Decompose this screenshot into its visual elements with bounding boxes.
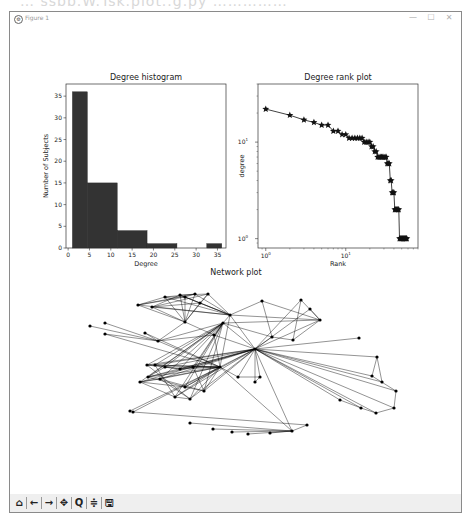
network-edge [372,357,377,376]
zoom-button[interactable]: Q [73,497,85,509]
network-edge [292,425,307,431]
y-tick-label: 35 [54,92,62,99]
magnifier-icon: Q [75,497,84,508]
network-plot-title: Network plot [210,268,261,277]
network-node [359,406,362,409]
network-node [146,375,149,378]
network-node [188,397,191,400]
floppy-icon: 🖫 [105,497,114,508]
network-node [253,347,256,350]
network-node [143,331,146,334]
network-node [394,389,397,392]
pan-button[interactable]: ✥ [58,497,70,509]
histogram-title: Degree histogram [110,73,182,82]
network-node [178,293,181,296]
navigation-toolbar: ⌂ ← → ✥ Q ≑ 🖫 [10,494,461,512]
network-edge [160,349,255,379]
network-node [131,410,134,413]
network-edge [376,408,394,413]
window-title: Figure 1 [25,14,49,21]
toolbar-divider [101,497,102,509]
network-edge [158,322,185,341]
x-tick-label: 20 [150,251,158,258]
network-edge [255,349,396,391]
toolbar-divider [56,497,57,509]
toolbar-divider [71,497,72,509]
maximize-button[interactable]: ☐ [424,13,438,22]
network-edge [214,335,255,349]
network-edge [255,349,292,431]
figure-canvas[interactable]: Degree histogram 05101520253035 05101520… [10,27,461,495]
save-button[interactable]: 🖫 [103,497,115,509]
background-text: … ssbb.W.Tsk.plot..g.py …………… [20,0,288,9]
network-node [218,365,221,368]
network-edge [152,307,185,322]
network-node [221,321,224,324]
network-node [88,324,91,327]
toolbar-divider [86,497,87,509]
network-edge [148,377,185,387]
y-tick-label: 5 [58,222,62,229]
histogram-bar [147,244,177,248]
network-edge [255,349,340,400]
y-tick-label: 101 [238,137,249,145]
network-node [270,335,273,338]
network-edge [140,382,185,387]
network-edge [90,326,158,341]
network-edge [223,323,272,337]
network-node [193,292,196,295]
sliders-icon: ≑ [90,497,98,508]
network-node [163,295,166,298]
x-tick-label: 15 [128,251,136,258]
back-button[interactable]: ← [28,497,40,509]
network-node [211,427,214,430]
network-node [198,301,201,304]
network-edge [105,323,158,341]
star-marker [325,122,332,129]
x-tick-label: 30 [192,251,200,258]
y-tick-label: 20 [54,157,62,164]
network-node [150,305,153,308]
forward-button[interactable]: → [43,497,55,509]
y-tick-label: 100 [238,234,249,242]
rank-plot-axes-frame [258,84,418,248]
star-marker [311,119,318,126]
x-tick-label: 100 [261,251,272,259]
network-edge [223,320,320,323]
network-node [183,320,186,323]
title-bar[interactable]: ⚙ Figure 1 — ☐ ✕ [10,12,461,27]
network-edge [255,338,359,349]
network-node [202,389,205,392]
histogram-ylabel: Number of Subjects [42,133,50,198]
network-node [153,363,156,366]
close-button[interactable]: ✕ [442,13,456,22]
network-edge [361,408,376,413]
network-node [392,406,395,409]
histogram-bar [72,92,87,248]
home-icon: ⌂ [15,497,22,508]
y-tick-label: 15 [54,179,62,186]
network-node [253,380,256,383]
network-edge [255,349,260,377]
histogram-bar [117,231,147,248]
network-node [178,367,181,370]
home-button[interactable]: ⌂ [13,497,25,509]
network-node [230,430,233,433]
network-node [318,318,321,321]
network-edge [372,376,396,391]
network-node [236,375,239,378]
move-icon: ✥ [60,497,68,508]
network-node [138,380,141,383]
network-node [206,292,209,295]
minimize-button[interactable]: — [406,13,420,22]
star-marker [318,122,325,129]
network-edge [394,391,396,408]
background-window-text: … ssbb.W.Tsk.plot..g.py …………… [0,0,469,10]
degree-histogram: Degree histogram 05101520253035 05101520… [42,73,226,268]
network-node [290,429,293,432]
network-node [183,385,186,388]
network-node [173,395,176,398]
histogram-bar [207,244,222,248]
configure-subplots-button[interactable]: ≑ [88,497,100,509]
network-edge [214,335,220,367]
